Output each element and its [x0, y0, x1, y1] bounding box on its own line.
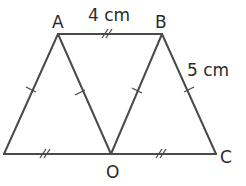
double-tick-marks	[40, 29, 166, 158]
single-tick-marks	[26, 87, 194, 95]
point-label-C: C	[220, 147, 232, 167]
measurement-AB: 4 cm	[88, 5, 130, 25]
measurement-BC: 5 cm	[187, 60, 229, 80]
point-label-B: B	[155, 12, 167, 32]
segment-left-side	[4, 34, 58, 154]
segment-OB	[111, 34, 162, 154]
segment-BC	[162, 34, 216, 154]
segment-AO	[58, 34, 111, 154]
geometry-diagram: A B C O 4 cm 5 cm	[0, 0, 246, 186]
point-label-A: A	[52, 12, 64, 32]
point-label-O: O	[106, 162, 119, 182]
